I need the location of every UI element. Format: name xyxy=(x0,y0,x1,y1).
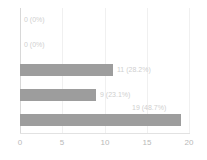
bar-row: 0 (0%) xyxy=(20,33,190,58)
x-tick-label: 5 xyxy=(60,139,64,147)
bar-row: 11 (28.2%) xyxy=(20,58,190,83)
bar xyxy=(20,64,113,76)
bar-data-label: 11 (28.2%) xyxy=(117,66,151,73)
x-axis-line xyxy=(20,133,190,134)
bar-data-label: 0 (0%) xyxy=(24,16,45,23)
x-tick-label: 0 xyxy=(18,139,22,147)
bar-data-label: 19 (48.7%) xyxy=(132,104,166,111)
bar-chart: 0 (0%) 0 (0%) 11 (28.2%) 9 (23.1%) 19 (4… xyxy=(0,0,207,160)
x-tick-label: 10 xyxy=(101,139,110,147)
x-tick-label: 20 xyxy=(185,139,194,147)
plot-area: 0 (0%) 0 (0%) 11 (28.2%) 9 (23.1%) 19 (4… xyxy=(20,8,190,133)
bar xyxy=(20,89,96,101)
x-tick-label: 15 xyxy=(143,139,152,147)
bar-row: 0 (0%) xyxy=(20,8,190,33)
bar-data-label: 0 (0%) xyxy=(24,41,45,48)
bar-data-label: 9 (23.1%) xyxy=(100,91,130,98)
bar xyxy=(20,114,181,126)
bar-row: 19 (48.7%) xyxy=(20,108,190,133)
